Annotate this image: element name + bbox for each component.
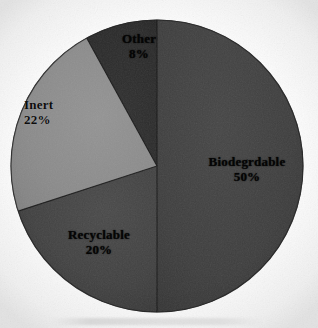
scan-grain-texture bbox=[0, 0, 318, 328]
pie-chart-svg bbox=[0, 0, 318, 328]
pie-chart-figure: Biodegrdable 50% Inert 22% Recyclable 20… bbox=[0, 0, 318, 328]
